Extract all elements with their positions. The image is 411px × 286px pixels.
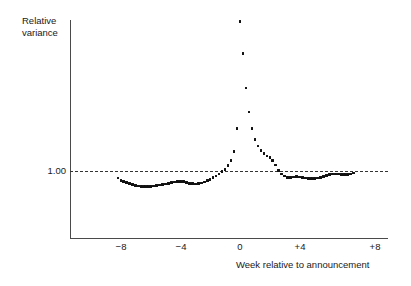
- data-point: [191, 182, 194, 185]
- data-point: [325, 174, 328, 177]
- data-point: [266, 155, 269, 158]
- data-point: [179, 180, 182, 183]
- data-point: [158, 184, 161, 187]
- data-point: [298, 176, 301, 179]
- x-axis-line: [70, 238, 388, 239]
- data-point: [218, 173, 221, 176]
- data-point: [269, 156, 272, 159]
- data-point: [352, 172, 355, 175]
- x-tick-label-zero: 0: [225, 241, 255, 252]
- data-point: [206, 179, 209, 182]
- data-point: [197, 182, 200, 185]
- data-point: [248, 111, 251, 114]
- data-point: [176, 180, 179, 183]
- data-point: [251, 127, 254, 130]
- y-tick-label-1.00: 1.00: [36, 165, 66, 176]
- data-point: [316, 177, 319, 180]
- data-point: [337, 173, 340, 176]
- data-point: [209, 178, 212, 181]
- data-point: [203, 181, 206, 184]
- data-point: [140, 185, 143, 188]
- data-point: [233, 150, 236, 153]
- x-tick-label-plus8: +8: [360, 241, 390, 252]
- x-tick-label-minus4: −4: [166, 241, 196, 252]
- data-point: [343, 173, 346, 176]
- data-point: [349, 173, 352, 176]
- data-point: [254, 138, 257, 141]
- data-point: [122, 180, 125, 183]
- data-point: [322, 175, 325, 178]
- y-axis-line: [70, 20, 71, 239]
- data-point: [331, 173, 334, 176]
- data-point: [242, 52, 245, 55]
- data-point: [182, 180, 185, 183]
- data-point: [167, 182, 170, 185]
- data-point: [292, 176, 295, 179]
- data-point: [304, 177, 307, 180]
- data-point: [310, 177, 313, 180]
- data-point: [188, 182, 191, 185]
- data-point: [340, 173, 343, 176]
- data-point: [227, 164, 230, 167]
- data-point: [125, 181, 128, 184]
- data-point: [313, 177, 316, 180]
- data-point: [173, 181, 176, 184]
- data-point: [295, 175, 298, 178]
- data-point: [152, 185, 155, 188]
- data-point: [307, 177, 310, 180]
- data-point: [215, 175, 218, 178]
- data-point: [137, 185, 140, 188]
- data-point: [286, 176, 289, 179]
- data-point: [257, 145, 260, 148]
- data-point: [149, 185, 152, 188]
- x-tick-label-minus8: −8: [106, 241, 136, 252]
- data-point: [164, 183, 167, 186]
- data-point: [194, 183, 197, 186]
- data-point: [161, 183, 164, 186]
- data-point: [185, 181, 188, 184]
- data-point: [120, 179, 123, 182]
- data-point: [260, 149, 263, 152]
- reference-line-1.00: [70, 171, 388, 172]
- data-series-markers: [0, 0, 411, 286]
- data-point: [212, 176, 215, 179]
- data-point: [301, 176, 304, 179]
- data-point: [245, 87, 248, 90]
- data-point: [230, 159, 233, 162]
- data-point: [319, 176, 322, 179]
- data-point: [155, 184, 158, 187]
- data-point: [334, 173, 337, 176]
- data-point: [283, 175, 286, 178]
- y-axis-title: Relative variance: [22, 15, 58, 38]
- data-point: [274, 164, 277, 167]
- data-point: [146, 185, 149, 188]
- x-tick-label-plus4: +4: [285, 241, 315, 252]
- chart-figure: Relative variance 1.00 −8 −4 0 +4 +8 Wee…: [0, 0, 411, 286]
- data-point: [239, 20, 242, 23]
- data-point: [280, 173, 283, 176]
- data-point: [128, 182, 131, 185]
- data-point: [346, 173, 349, 176]
- data-point: [200, 182, 203, 185]
- data-point: [143, 185, 146, 188]
- data-point: [236, 127, 239, 130]
- data-point: [117, 177, 120, 180]
- data-point: [328, 173, 331, 176]
- data-point: [263, 152, 266, 155]
- data-point: [134, 184, 137, 187]
- data-point: [170, 181, 173, 184]
- data-point: [271, 159, 274, 162]
- x-axis-title: Week relative to announcement: [236, 259, 369, 271]
- data-point: [131, 183, 134, 186]
- data-point: [289, 176, 292, 179]
